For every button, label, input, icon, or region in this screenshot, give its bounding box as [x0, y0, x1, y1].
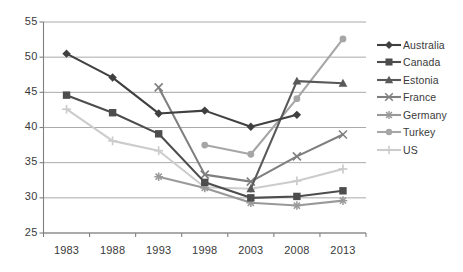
y-axis-tick-label: 35	[4, 155, 38, 167]
x-axis-tick-label: 1998	[180, 244, 230, 256]
x-axis-tick-label: 1993	[134, 244, 184, 256]
data-point-marker	[385, 41, 393, 49]
series-line	[159, 87, 343, 181]
data-point-marker	[385, 111, 393, 119]
data-point-marker	[63, 91, 70, 98]
legend-label: Australia	[403, 39, 445, 51]
data-point-marker	[339, 165, 348, 174]
y-axis-tick-label: 30	[4, 190, 38, 202]
x-axis-tick-label: 1983	[42, 244, 92, 256]
legend-item-france[interactable]: France	[376, 89, 462, 107]
data-point-marker	[339, 196, 348, 205]
data-point-marker	[247, 151, 254, 158]
data-point-marker	[385, 59, 392, 66]
x-axis-tick-label: 2008	[272, 244, 322, 256]
y-axis-tick-label: 40	[4, 120, 38, 132]
legend-marker-plus-icon	[376, 143, 402, 157]
chart-legend: AustraliaCanadaEstoniaFranceGermanyTurke…	[376, 36, 462, 159]
y-axis-tick-label: 25	[4, 226, 38, 238]
data-point-marker	[339, 131, 347, 139]
data-point-marker	[201, 106, 209, 114]
legend-label: Turkey	[403, 126, 435, 138]
data-point-marker	[201, 142, 208, 149]
legend-item-turkey[interactable]: Turkey	[376, 124, 462, 142]
y-axis-tick-label: 55	[4, 15, 38, 27]
data-point-marker	[247, 194, 254, 201]
y-axis-tick-label: 50	[4, 50, 38, 62]
legend-label: US	[403, 144, 418, 156]
legend-item-estonia[interactable]: Estonia	[376, 71, 462, 89]
data-point-marker	[339, 187, 346, 194]
legend-item-canada[interactable]: Canada	[376, 54, 462, 72]
legend-label: Germany	[403, 109, 447, 121]
data-point-marker	[293, 152, 301, 160]
legend-label: France	[403, 91, 436, 103]
data-point-marker	[293, 193, 300, 200]
legend-label: Estonia	[403, 74, 439, 86]
legend-marker-x-icon	[376, 90, 402, 104]
x-axis-tick-label: 2003	[226, 244, 276, 256]
data-point-marker	[385, 146, 393, 154]
x-axis-tick-label: 2013	[318, 244, 368, 256]
data-point-marker	[155, 83, 163, 91]
axes	[40, 22, 367, 237]
data-point-marker	[109, 109, 116, 116]
line-chart: AustraliaCanadaEstoniaFranceGermanyTurke…	[0, 0, 463, 272]
y-axis-tick-label: 45	[4, 85, 38, 97]
data-point-marker	[292, 177, 301, 186]
legend-item-australia[interactable]: Australia	[376, 36, 462, 54]
legend-marker-circle-icon	[376, 125, 402, 139]
legend-marker-triangle-icon	[376, 73, 402, 87]
data-point-marker	[293, 95, 300, 102]
data-point-marker	[293, 201, 302, 210]
data-point-marker	[62, 49, 70, 57]
x-axis-tick-label: 1988	[88, 244, 138, 256]
data-point-marker	[293, 111, 301, 119]
series-turkey	[201, 35, 346, 157]
series-australia	[62, 49, 301, 131]
data-point-marker	[201, 179, 208, 186]
legend-marker-diamond-icon	[376, 38, 402, 52]
data-point-marker	[386, 129, 392, 135]
legend-marker-asterisk-icon	[376, 108, 402, 122]
data-point-marker	[340, 35, 347, 42]
legend-marker-square-icon	[376, 55, 402, 69]
legend-item-germany[interactable]: Germany	[376, 106, 462, 124]
data-point-marker	[154, 172, 163, 181]
data-point-marker	[247, 123, 255, 131]
series-line	[67, 54, 297, 127]
legend-label: Canada	[403, 56, 440, 68]
data-point-marker	[155, 130, 162, 137]
series-line	[67, 109, 343, 188]
legend-item-us[interactable]: US	[376, 141, 462, 159]
